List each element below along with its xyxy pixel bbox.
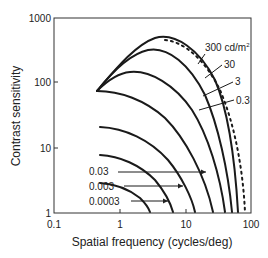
label-0.003: 0.003 (89, 181, 114, 192)
label-0.0003: 0.0003 (89, 196, 120, 207)
y-tick-100: 100 (34, 77, 51, 88)
label-300: 300 cd/m2 (205, 42, 250, 53)
label-3: 3 (235, 76, 241, 87)
y-tick-1000: 1000 (29, 13, 52, 24)
x-axis-title: Spatial frequency (cycles/deg) (72, 235, 233, 249)
x-tick-0.1: 0.1 (47, 219, 61, 230)
label-0.3: 0.3 (236, 95, 250, 106)
y-axis-ticks (54, 82, 58, 148)
leader-3 (203, 82, 233, 96)
x-axis-ticks (120, 209, 186, 213)
y-tick-1: 1 (45, 208, 51, 219)
label-0.03: 0.03 (89, 166, 109, 177)
label-30: 30 (224, 59, 236, 70)
x-tick-100: 100 (243, 219, 260, 230)
x-tick-1: 1 (117, 219, 123, 230)
curve-0.3 (97, 91, 213, 212)
leader-0.3 (199, 100, 234, 110)
y-axis-title: Contrast sensitivity (9, 66, 23, 167)
y-tick-10: 10 (40, 143, 52, 154)
x-tick-10: 10 (180, 219, 192, 230)
contrast-sensitivity-chart: 1000 100 10 1 0.1 1 10 100 Spatial frequ… (0, 0, 268, 258)
